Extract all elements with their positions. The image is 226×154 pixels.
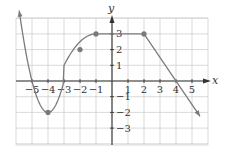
y-axis-arrow-icon — [110, 15, 115, 23]
x-tick-label: −5 — [25, 84, 40, 95]
right-arrow-icon — [195, 110, 200, 116]
x-axis-label: x — [212, 74, 219, 87]
x-tick-label: −4 — [41, 84, 56, 95]
y-tick-label: −3 — [116, 123, 131, 134]
x-tick-label: −3 — [57, 84, 72, 95]
x-tick-label: −2 — [73, 84, 88, 95]
data-point — [77, 47, 82, 52]
y-tick-label: 2 — [116, 44, 122, 55]
function-graph: −5−4−3−2−112345321−1−2−3 x y — [0, 0, 226, 154]
x-tick-label: −1 — [89, 84, 104, 95]
x-axis-arrow-icon — [203, 79, 211, 84]
x-tick-label: 2 — [141, 84, 147, 95]
x-tick-label: 4 — [173, 84, 179, 95]
function-curve — [18, 11, 200, 117]
x-tick-label: 3 — [157, 84, 163, 95]
x-tick-label: 5 — [189, 84, 195, 95]
function-curve-path — [19, 11, 200, 117]
y-tick-label: 1 — [116, 60, 122, 71]
left-arrow-icon — [18, 11, 23, 17]
y-tick-label: −2 — [116, 107, 131, 118]
y-axis-label: y — [107, 2, 115, 15]
data-point — [141, 31, 146, 36]
data-point — [93, 31, 98, 36]
y-tick-label: −1 — [116, 91, 131, 102]
data-point — [45, 110, 50, 115]
